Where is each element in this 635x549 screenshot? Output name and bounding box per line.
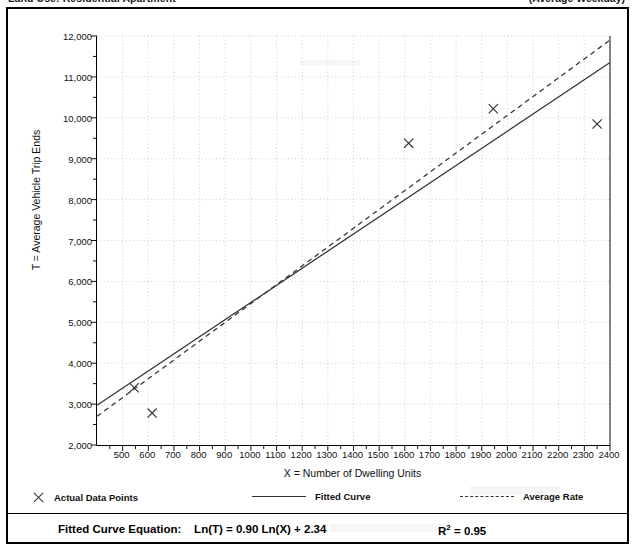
grid-lines — [97, 36, 610, 445]
fitted-curve-equation: Fitted Curve Equation: Ln(T) = 0.90 Ln(X… — [58, 523, 326, 535]
cropped-page-caption: Land Use: Residential Apartment (Average… — [0, 0, 635, 7]
axis-ticks — [91, 36, 610, 451]
data-point-marker — [489, 104, 498, 113]
legend-label-fitted-curve: Fitted Curve — [315, 491, 370, 502]
figure-frame: 2,0003,0004,0005,0006,0007,0008,0009,000… — [6, 7, 629, 544]
data-points — [130, 104, 602, 417]
x-axis-tick-label: 600 — [139, 449, 155, 460]
x-axis-tick-label: 1800 — [445, 449, 466, 460]
caption-right-text: (Average Weekday) — [529, 0, 625, 4]
dashed-line-icon — [460, 496, 514, 497]
legend-item-average-rate: Average Rate — [460, 491, 583, 502]
x-marker-icon — [32, 491, 45, 504]
x-axis-tick-label: 800 — [191, 449, 207, 460]
data-point-marker — [593, 119, 602, 128]
y-axis-tick-labels: 2,0003,0004,0005,0006,0007,0008,0009,000… — [36, 36, 92, 445]
figure-page: Land Use: Residential Apartment (Average… — [0, 0, 635, 549]
data-point-marker — [404, 139, 413, 148]
y-axis-tick-label: 11,000 — [64, 71, 92, 82]
x-axis-tick-label: 2300 — [573, 449, 594, 460]
x-axis-tick-label: 1900 — [470, 449, 491, 460]
x-axis-tick-label: 900 — [216, 449, 232, 460]
x-axis-tick-label: 700 — [165, 449, 181, 460]
x-axis-tick-label: 1000 — [239, 449, 260, 460]
x-axis-tick-label: 500 — [114, 449, 130, 460]
legend-label-actual-data-points: Actual Data Points — [54, 492, 138, 503]
x-axis-title: X = Number of Dwelling Units — [96, 467, 609, 479]
y-axis-tick-label: 2,000 — [68, 440, 92, 451]
y-axis-tick-label: 5,000 — [68, 317, 92, 328]
x-axis-tick-label: 1100 — [265, 449, 285, 460]
x-axis-tick-label: 1400 — [342, 449, 363, 460]
r-squared-number: = 0.95 — [454, 525, 486, 537]
chart-legend: Actual Data Points Fitted Curve Average … — [8, 491, 627, 513]
x-axis-tick-label: 1300 — [316, 449, 337, 460]
y-axis-tick-label: 4,000 — [68, 358, 92, 369]
y-axis-tick-label: 7,000 — [68, 235, 92, 246]
series-line-average-rate — [97, 40, 610, 416]
series-line-fitted-curve — [97, 63, 610, 406]
equation-expression: Ln(T) = 0.90 Ln(X) + 2.34 — [194, 523, 326, 535]
data-point-marker — [130, 383, 139, 392]
y-axis-tick-label: 9,000 — [68, 153, 92, 164]
caption-left-text: Land Use: Residential Apartment — [8, 0, 176, 4]
legend-item-fitted-curve: Fitted Curve — [252, 491, 370, 502]
x-axis-tick-label: 1600 — [393, 449, 414, 460]
x-axis-tick-label: 2100 — [521, 449, 542, 460]
solid-line-icon — [252, 496, 306, 497]
y-axis-tick-label: 12,000 — [63, 31, 92, 42]
equation-label: Fitted Curve Equation: — [58, 523, 181, 535]
y-axis-title: T = Average Vehicle Trip Ends — [30, 80, 42, 320]
equation-band: Fitted Curve Equation: Ln(T) = 0.90 Ln(X… — [8, 513, 627, 546]
y-axis-tick-label: 8,000 — [68, 194, 92, 205]
plot-container: 2,0003,0004,0005,0006,0007,0008,0009,000… — [8, 9, 627, 479]
r-squared-value: R2 = 0.95 — [438, 523, 486, 537]
plot-area — [96, 36, 610, 446]
y-axis-tick-label: 10,000 — [63, 112, 92, 123]
x-axis-tick-labels: 5006007008009001000110012001300140015001… — [96, 449, 609, 465]
x-axis-tick-label: 2400 — [598, 449, 619, 460]
x-axis-tick-label: 2000 — [496, 449, 517, 460]
data-point-marker — [148, 408, 157, 417]
legend-label-average-rate: Average Rate — [523, 491, 583, 502]
x-axis-tick-label: 1500 — [368, 449, 389, 460]
x-axis-tick-label: 1700 — [419, 449, 440, 460]
y-axis-tick-label: 3,000 — [68, 399, 92, 410]
chart-canvas — [97, 36, 610, 445]
r-squared-exponent: 2 — [446, 523, 450, 532]
y-axis-tick-label: 6,000 — [68, 276, 92, 287]
x-axis-tick-label: 2200 — [547, 449, 568, 460]
legend-item-actual-data-points: Actual Data Points — [32, 491, 138, 504]
x-axis-tick-label: 1200 — [291, 449, 312, 460]
